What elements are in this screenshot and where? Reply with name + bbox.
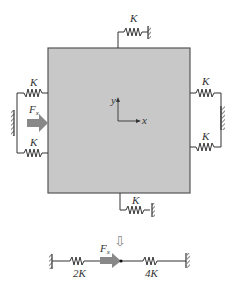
rigid-block [48,48,190,193]
top-spring-label: K [129,12,138,24]
y-axis-label: y [110,94,116,106]
equivalence-arrow-icon: ⇩ [114,233,126,249]
top-spring [118,26,151,48]
equivalent-force-label: Fx [99,242,111,256]
bottom-spring-label: K [131,194,140,206]
right-equivalent-spring-label: 4K [145,267,159,279]
x-axis-label: x [141,114,147,126]
left-equivalent-spring-label: 2K [73,267,87,279]
spring-diagram: K K K K Fx K K y x ⇩ [0,0,239,293]
equivalent-force-arrow [100,253,123,268]
left-upper-spring-label: K [29,76,38,88]
right-lower-spring-label: K [201,130,210,142]
force-label: Fx [28,103,40,117]
left-lower-spring-label: K [29,136,38,148]
right-upper-spring-label: K [201,75,210,87]
